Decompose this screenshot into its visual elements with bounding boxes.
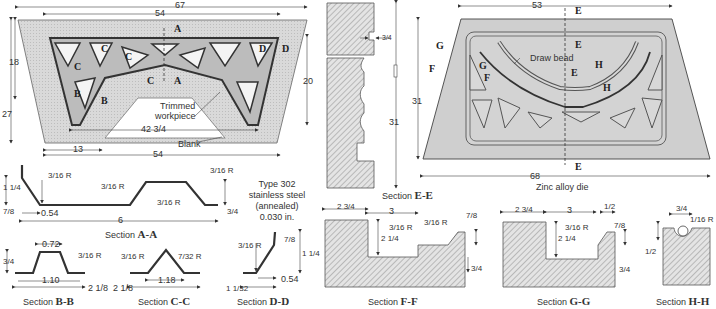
gg-top-right: 1/2 — [604, 203, 615, 211]
section-marker-h-2: H — [603, 83, 611, 93]
ff-depth: 2 1/4 — [381, 235, 399, 243]
section-marker-c-1: C — [74, 62, 81, 72]
aa-bottom-left: 7/8 — [3, 208, 14, 216]
gg-bottom-right: 3/4 — [619, 266, 630, 274]
ff-top-right: 7/8 — [466, 212, 477, 220]
cc-base: 1.18 — [158, 276, 176, 285]
draw-bead-label: Draw bead — [530, 54, 574, 63]
section-bb-profile — [15, 252, 85, 273]
aa-radius-3: 3/16 R — [157, 199, 181, 207]
section-marker-c-3: C — [125, 52, 132, 62]
dd-top: 7/8 — [284, 236, 295, 244]
section-marker-b-1: B — [74, 89, 81, 99]
cc-radius-top: 7/32 R — [178, 253, 202, 261]
die-caption: Zinc alloy die — [536, 183, 589, 192]
dim-bottom-width: 54 — [153, 150, 163, 159]
section-marker-c-2: C — [101, 44, 108, 54]
hh-radius: 1/16 R — [690, 216, 714, 224]
ee-height: 31 — [389, 118, 399, 127]
section-marker-d-1: D — [259, 44, 266, 54]
dd-radius: 3/16 R — [238, 242, 262, 250]
section-marker-h-1: H — [595, 60, 603, 70]
section-marker-c-4: C — [147, 76, 154, 86]
zinc-alloy-die — [423, 8, 710, 165]
hh-left: 1/2 — [645, 248, 656, 256]
aa-offset: 0.54 — [41, 209, 59, 218]
gg-radius: 3/16 R — [565, 224, 589, 232]
dim-overall-width: 67 — [175, 1, 185, 10]
ff-left: 2 3/4 — [337, 203, 355, 211]
section-dd-caption: Section D-D — [237, 296, 289, 307]
ee-notch: 3/4 — [382, 34, 392, 41]
aa-width: 6 — [118, 216, 123, 225]
dim-inner-height: 18 — [9, 58, 19, 67]
section-hh-caption: Section H-H — [656, 296, 709, 307]
dd-width: 1 1/32 — [226, 285, 248, 293]
die-height: 31 — [412, 97, 422, 106]
bb-height: 3/4 — [3, 258, 14, 266]
die-top-width: 53 — [532, 1, 542, 10]
blank-label: Blank — [178, 140, 201, 149]
section-marker-e-1: E — [575, 6, 582, 16]
section-marker-a-top: A — [174, 24, 181, 34]
section-dd-profile — [243, 232, 275, 273]
bb-radius: 3/16 R — [78, 252, 102, 260]
dim-workpiece-bottom: 42 3/4 — [141, 125, 166, 134]
section-marker-f-1: F — [429, 64, 435, 74]
workpiece-label: workpiece — [155, 112, 196, 121]
section-marker-d-2: D — [282, 44, 289, 54]
dd-height: 1 1/4 — [302, 250, 320, 258]
dim-inner-width: 54 — [155, 9, 165, 18]
cc-radius-left: 3/16 R — [121, 253, 145, 261]
bb-top: 0.72 — [42, 240, 60, 249]
section-marker-f-2: F — [484, 73, 490, 83]
aa-radius-1: 3/16 R — [48, 172, 72, 180]
section-marker-g-1: G — [436, 41, 444, 51]
section-marker-e-3: E — [571, 68, 578, 78]
cc-width: 2 1/8 — [113, 284, 133, 293]
section-marker-b-2: B — [101, 96, 108, 106]
bb-width: 2 1/8 — [88, 284, 108, 293]
dim-blank-height: 27 — [2, 110, 12, 119]
die-bottom-width: 68 — [530, 172, 540, 181]
aa-height: 1 1/4 — [3, 184, 21, 192]
ff-middle: 3 — [389, 207, 394, 216]
section-ee-caption: Section E-E — [382, 190, 433, 201]
aa-radius-4: 3/16 R — [210, 167, 234, 175]
dd-offset: 0.54 — [281, 275, 299, 284]
aa-right-height: 3/4 — [227, 208, 238, 216]
trimmed-label: Trimmed — [160, 102, 195, 111]
ff-bottom-right: 3/4 — [471, 265, 482, 273]
section-marker-e-4: E — [575, 162, 582, 172]
hh-top: 3/4 — [676, 205, 687, 213]
section-marker-e-2: E — [575, 40, 582, 50]
section-marker-a-bottom: A — [174, 76, 181, 86]
section-gg-caption: Section G-G — [537, 296, 590, 307]
gg-depth: 2 1/4 — [558, 235, 576, 243]
gg-left: 2 3/4 — [515, 206, 533, 214]
section-bb-caption: Section B-B — [23, 296, 74, 307]
section-gg — [503, 222, 615, 287]
section-ee — [327, 3, 374, 188]
section-marker-g-2: G — [479, 61, 487, 71]
section-hh — [663, 226, 710, 285]
gg-mid-right: 7/8 — [614, 222, 625, 230]
section-cc-caption: Section C-C — [138, 296, 190, 307]
section-ff-caption: Section F-F — [368, 296, 418, 307]
gg-middle: 3 — [567, 206, 572, 215]
section-aa-caption: Section A-A — [105, 229, 157, 240]
bb-base: 1.10 — [42, 276, 60, 285]
aa-radius-2: 3/16 R — [101, 183, 125, 191]
ff-radius-1: 3/16 R — [389, 224, 413, 232]
dim-bottom-left: 13 — [73, 145, 83, 154]
material-note: Type 302 stainless steel (annealed) 0.03… — [240, 179, 314, 223]
ff-radius-2: 3/16 R — [424, 219, 448, 227]
dim-right-height: 20 — [303, 77, 313, 86]
